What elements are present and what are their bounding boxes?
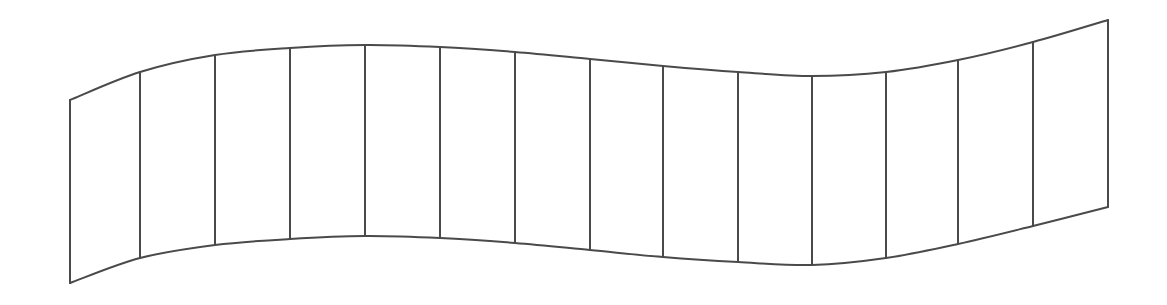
ribbon-strip-diagram: Curved ribbon strip with segment divider… (0, 0, 1167, 305)
figure-canvas: Curved ribbon strip with segment divider… (0, 0, 1167, 305)
